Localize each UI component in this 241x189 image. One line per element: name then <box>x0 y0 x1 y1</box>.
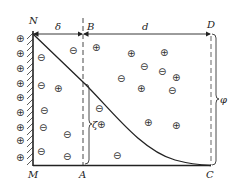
minus-ion-icon: ⊖ <box>63 129 71 140</box>
minus-ion-icon: ⊖ <box>158 66 166 77</box>
minus-ion-icon: ⊖ <box>63 151 71 162</box>
plus-ion-icon: ⊕ <box>16 152 24 163</box>
plus-ion-icon: ⊕ <box>127 48 135 59</box>
label-D: D <box>206 19 215 30</box>
minus-ion-icon: ⊖ <box>140 61 148 72</box>
plus-ion-icon: ⊕ <box>16 92 24 103</box>
minus-ion-icon: ⊖ <box>69 45 77 56</box>
plus-ion-icon: ⊕ <box>16 135 24 146</box>
minus-ion-icon: ⊖ <box>39 122 47 133</box>
potential-curve <box>33 34 211 166</box>
solution-ions: ⊖ ⊖ ⊕ ⊕ ⊕ ⊖ ⊖ ⊕ ⊖ ⊕ ⊖ ⊖ ⊕ ⊖ ⊖ ⊖ ⊖ ⊖ ⊖ ⊕ … <box>37 42 180 162</box>
plus-ion-icon: ⊕ <box>54 83 62 94</box>
label-N: N <box>28 15 39 26</box>
phi-brace <box>212 34 219 165</box>
label-A: A <box>78 169 86 180</box>
double-layer-diagram: N M A B C D δ d ζ φ ⊕ ⊕ ⊕ ⊕ ⊕ ⊕ ⊕ ⊕ ⊕ ⊖ … <box>0 0 241 189</box>
plus-ion-icon: ⊕ <box>92 42 100 53</box>
label-d: d <box>142 21 148 32</box>
minus-ion-icon: ⊖ <box>168 85 176 96</box>
label-C: C <box>206 169 214 180</box>
plus-ion-icon: ⊕ <box>172 120 180 131</box>
minus-ion-icon: ⊖ <box>40 105 48 116</box>
plus-ion-icon: ⊕ <box>16 63 24 74</box>
wall-ions: ⊕ ⊕ ⊕ ⊕ ⊕ ⊕ ⊕ ⊕ ⊕ <box>16 33 24 163</box>
plus-ion-icon: ⊕ <box>16 78 24 89</box>
plus-ion-icon: ⊕ <box>16 107 24 118</box>
label-M: M <box>27 169 39 180</box>
minus-ion-icon: ⊖ <box>117 73 125 84</box>
plus-ion-icon: ⊕ <box>97 119 105 130</box>
plus-ion-icon: ⊕ <box>172 72 180 83</box>
minus-ion-icon: ⊖ <box>37 52 45 63</box>
label-phi: φ <box>220 94 227 105</box>
plus-ion-icon: ⊕ <box>16 48 24 59</box>
plus-ion-icon: ⊕ <box>144 117 152 128</box>
plus-ion-icon: ⊕ <box>16 33 24 44</box>
zeta-brace <box>85 84 92 164</box>
label-B: B <box>86 21 94 32</box>
plus-ion-icon: ⊕ <box>160 47 168 58</box>
minus-ion-icon: ⊖ <box>37 146 45 157</box>
minus-ion-icon: ⊖ <box>95 103 103 114</box>
electrode-wall-hatching <box>27 33 33 165</box>
plus-ion-icon: ⊕ <box>137 83 145 94</box>
label-delta: δ <box>55 21 61 32</box>
minus-ion-icon: ⊖ <box>113 150 121 161</box>
minus-ion-icon: ⊖ <box>37 80 45 91</box>
plus-ion-icon: ⊕ <box>16 122 24 133</box>
